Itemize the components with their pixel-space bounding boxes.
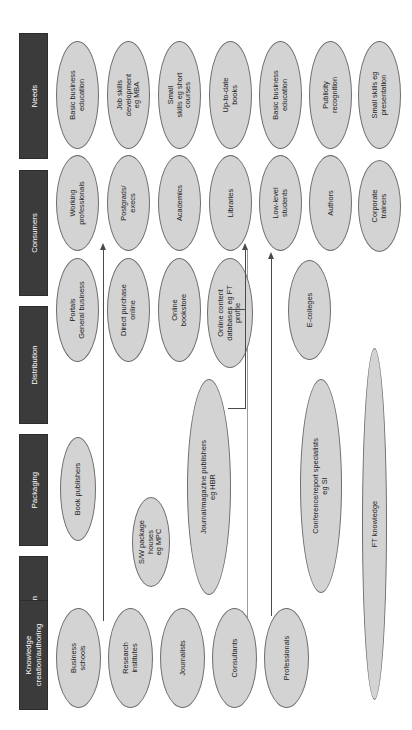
node-label: Consultants [230,638,239,677]
connector-line [103,249,104,621]
node-consumers-5[interactable]: Low-levelstudents [259,155,302,251]
node-label: Researchinstitutes [122,642,139,674]
node-distribution-4[interactable]: Online contentdatabases eg FTprofile [207,258,253,368]
node-knowledge-3[interactable]: Journalists [160,608,205,708]
node-label: E-colleges [305,293,314,328]
arrow-head-icon [268,252,274,259]
node-label: Basic businesseducation [272,70,289,119]
node-label: Basic businesseducation [69,70,86,119]
node-label: FT knowledge [370,501,379,547]
node-needs-4[interactable]: Up-to-datebooks [209,41,252,149]
node-selection-1[interactable]: S/W packagehouseseg MPC [132,497,170,587]
node-label: S/W packagehouseseg MPC [138,520,164,564]
node-label: Onlinebookstore [171,294,188,326]
node-distribution-2[interactable]: Direct purchaseonline [107,258,150,362]
node-knowledge-5[interactable]: Professionals [264,608,309,708]
node-label: Online contentdatabases eg FTprofile [217,285,243,340]
node-packaging-1[interactable]: Book publishers [60,437,96,541]
stage-bar-needs: Needs [19,33,48,159]
node-consumers-6[interactable]: Authors [309,155,352,251]
node-consumers-1[interactable]: Workingprofessionals [56,155,99,251]
node-label: Small skills egpresentation [371,72,388,119]
node-label: Professionals [282,636,291,680]
connector-line [245,249,246,409]
node-needs-5[interactable]: Basic businesseducation [259,41,302,149]
node-packaging-2[interactable]: Journal/magazine publisherseg HBR [187,379,231,595]
node-needs-3[interactable]: Smallskills eg shortcourses [158,41,201,149]
node-needs-2[interactable]: Job skillsdevelopmenteg MBA [107,41,150,149]
node-consumers-4[interactable]: Libraries [209,155,252,251]
node-consumers-2[interactable]: Postgrads/execs [107,155,150,251]
arrow-head-icon [242,243,248,250]
arrow-head-icon [100,243,106,250]
node-distribution-1[interactable]: PortalsGeneral business [56,258,99,362]
node-label: Smallskills eg shortcourses [167,73,193,118]
connector-stub-lower [228,408,246,409]
stage-label-packaging: Packaging [29,472,38,508]
node-knowledge-2[interactable]: Researchinstitutes [108,608,153,708]
node-label: Direct purchaseonline [120,284,137,336]
stage-bar-consumers: Consumers [19,170,48,296]
node-label: Academics [175,185,184,221]
node-packaging-3[interactable]: Conference/report specialistseg SI [300,379,342,593]
connector-stub-upper [228,309,246,310]
node-label: Journalists [178,640,187,675]
node-packaging-4[interactable]: FT knowledge [362,348,387,700]
node-needs-7[interactable]: Small skills egpresentation [358,41,401,149]
node-label: Publicityrecognition [322,77,339,113]
node-consumers-7[interactable]: Corporatetrainers [358,160,401,252]
node-knowledge-4[interactable]: Consultants [212,608,257,708]
node-consumers-3[interactable]: Academics [158,155,201,251]
node-label: Postgrads/execs [120,185,137,220]
node-knowledge-1[interactable]: Businessschools [56,608,101,708]
stage-bar-knowledge-creation: Knowledgecreation/authoring [19,600,48,710]
node-label: Workingprofessionals [69,181,86,225]
stage-bar-packaging: Packaging [19,434,48,546]
node-label: Job skillsdevelopmenteg MBA [116,74,142,116]
node-label: Libraries [226,189,235,217]
node-needs-1[interactable]: Basic businesseducation [56,41,99,149]
node-distribution-3[interactable]: Onlinebookstore [158,258,201,362]
node-distribution-5[interactable]: E-colleges [288,260,331,360]
node-label: Up-to-datebooks [222,78,239,113]
node-label: Authors [326,190,335,215]
node-label: Journal/magazine publisherseg HBR [200,440,217,534]
node-label: Book publishers [74,463,83,516]
node-label: Low-levelstudents [272,187,289,218]
node-label: Conference/report specialistseg SI [312,438,329,534]
stage-bar-distribution: Distribution [19,306,48,424]
connector-line [271,258,272,616]
stage-label-needs: Needs [29,85,38,107]
value-chain-diagram: Needs Consumers Distribution Packaging S… [0,0,412,730]
stage-label-distribution: Distribution [29,345,38,384]
node-needs-6[interactable]: Publicityrecognition [309,41,352,149]
stage-label-knowledge-creation: Knowledgecreation/authoring [24,624,44,687]
node-label: Corporatetrainers [371,190,388,223]
node-label: PortalsGeneral business [69,281,86,339]
node-label: Businessschools [70,643,87,673]
stage-label-consumers: Consumers [29,213,38,253]
